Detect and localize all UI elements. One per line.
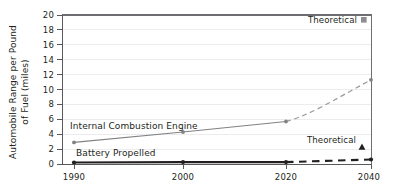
y-tick-label-8: 8	[48, 99, 54, 109]
ice-series-label: Internal Combustion Engine	[70, 121, 198, 131]
y-tick-label-2: 2	[48, 144, 54, 154]
chart-container: 0 2 4 6 8 10 12 14 16 18 20 1990 2000 20…	[0, 0, 400, 190]
ice-point-2020	[284, 120, 288, 124]
annotation-theoretical-ice-label: Theoretical	[307, 15, 357, 25]
battery-series-label: Battery Propelled	[76, 148, 156, 158]
y-axis-title-line2: of Fuel (miles)	[20, 59, 30, 124]
y-tick-label-4: 4	[48, 129, 54, 139]
ice-point-2000	[181, 130, 185, 134]
y-tick-label-16: 16	[43, 40, 54, 50]
x-tick-label-2000: 2000	[172, 172, 194, 182]
y-tick-label-20: 20	[43, 10, 54, 20]
y-tick-label-10: 10	[43, 85, 54, 95]
battery-point-2020	[284, 160, 288, 164]
y-tick-label-12: 12	[43, 70, 54, 80]
automobile-range-line-chart: 0 2 4 6 8 10 12 14 16 18 20 1990 2000 20…	[0, 0, 400, 190]
battery-point-2000	[181, 160, 185, 164]
square-icon	[361, 17, 367, 23]
y-tick-label-6: 6	[48, 114, 54, 124]
x-tick-label-2020: 2020	[275, 172, 297, 182]
y-tick-label-0: 0	[48, 159, 54, 169]
x-tick-label-1990: 1990	[63, 172, 85, 182]
y-tick-label-18: 18	[43, 25, 54, 35]
battery-point-1990	[72, 160, 76, 164]
y-axis-title-line1: Automobile Range per Pound	[8, 25, 18, 159]
y-tick-label-14: 14	[43, 55, 54, 65]
ice-point-1990	[72, 141, 76, 145]
annotation-theoretical-battery-label: Theoretical	[306, 135, 356, 145]
ice-point-2040	[369, 78, 373, 82]
x-tick-label-2040: 2040	[358, 172, 380, 182]
battery-point-2040	[369, 157, 373, 161]
